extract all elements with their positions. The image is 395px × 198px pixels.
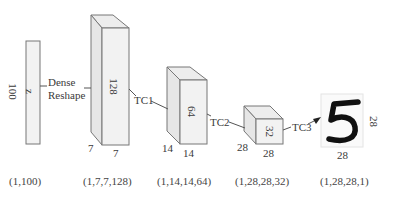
block2-depth-label: 64 xyxy=(186,106,197,117)
connector-tc2-right xyxy=(229,122,245,128)
block3-depth-label: 32 xyxy=(264,126,275,137)
connector-tc3-left xyxy=(283,127,291,130)
block2-width-label: 14 xyxy=(183,147,194,159)
edge-label-tc1: TC1 xyxy=(134,94,154,106)
edge-label-tc2: TC2 xyxy=(210,116,230,128)
block1-depth-label: 128 xyxy=(108,78,119,95)
output-width-label: 28 xyxy=(337,149,348,161)
caption-output: (1,28,28,1) xyxy=(320,175,369,187)
edge-label-dense: Dense xyxy=(48,76,76,88)
edge-label-tc3: TC3 xyxy=(292,121,312,133)
block3-height-label: 28 xyxy=(237,141,248,153)
edge-label-reshape: Reshape xyxy=(48,89,85,101)
arrowhead-icon xyxy=(313,117,321,124)
caption-input: (1,100) xyxy=(9,175,41,187)
input-inner-label: z xyxy=(24,89,35,94)
output-height-label: 28 xyxy=(368,116,379,127)
block2-height-label: 14 xyxy=(162,142,173,154)
block3-cuboid xyxy=(244,106,283,144)
block3-width-label: 28 xyxy=(263,147,274,159)
output-digit-image xyxy=(321,94,363,147)
caption-block2: (1,14,14,64) xyxy=(157,175,211,187)
input-size-label: 100 xyxy=(7,83,18,100)
caption-block1: (1,7,7,128) xyxy=(83,175,132,187)
block1-width-label: 7 xyxy=(113,147,119,159)
caption-block3: (1,28,28,32) xyxy=(235,175,289,187)
block1-height-label: 7 xyxy=(88,142,94,154)
